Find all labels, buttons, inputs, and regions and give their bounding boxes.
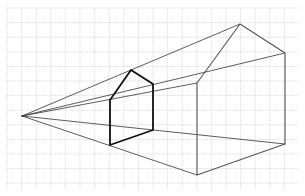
vanishing-point	[21, 115, 23, 117]
perspective-diagram	[0, 0, 305, 196]
large-house-outline	[197, 24, 285, 175]
